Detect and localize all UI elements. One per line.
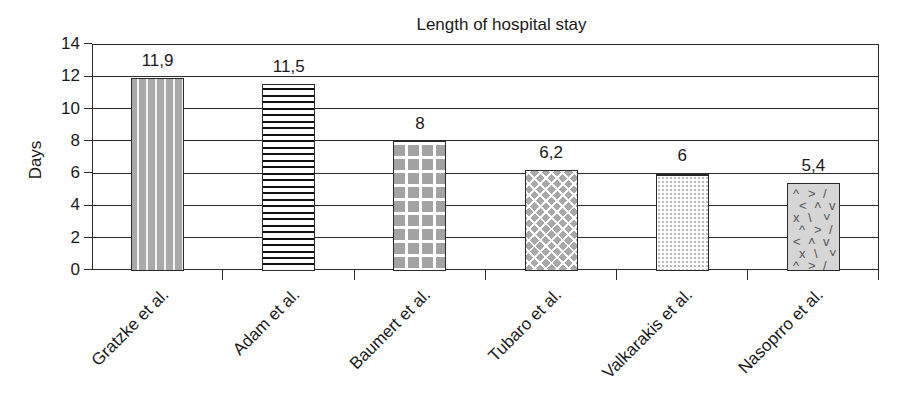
x-category-label: Nasoprro et al.	[735, 285, 828, 378]
x-category-label: Gratzke et al.	[87, 285, 173, 371]
bar-value-label: 11,9	[118, 51, 198, 71]
bar-adam	[262, 84, 315, 271]
y-tick-mark	[84, 205, 92, 206]
chart-title: Length of hospital stay	[0, 15, 908, 35]
x-tick-mark	[878, 270, 879, 280]
bar-pattern-glyph: >	[808, 259, 816, 272]
plot-area	[92, 44, 879, 270]
y-tick-mark	[84, 140, 92, 141]
bar-value-label: 6	[642, 146, 722, 166]
y-tick-mark	[84, 76, 92, 77]
x-tick-mark	[222, 270, 223, 280]
gridline	[93, 173, 878, 174]
y-tick-mark	[84, 237, 92, 238]
gridline	[93, 205, 878, 206]
y-tick-label: 10	[40, 100, 80, 117]
gridline	[93, 76, 878, 77]
y-tick-label: 0	[40, 261, 80, 278]
bar-pattern-glyph: /	[829, 223, 833, 236]
y-tick-mark	[84, 172, 92, 173]
bar-baumert	[393, 141, 446, 271]
gridline	[93, 237, 878, 238]
bar-pattern-glyph: ˄	[814, 199, 822, 212]
x-tick-mark	[747, 270, 748, 280]
x-tick-mark	[485, 270, 486, 280]
y-tick-label: 8	[40, 132, 80, 149]
bar-value-label: 8	[380, 114, 460, 134]
x-category-label: Valkarakis et al.	[599, 285, 697, 383]
x-category-label: Tubaro et al.	[485, 285, 566, 366]
y-tick-label: 14	[40, 35, 80, 52]
x-tick-mark	[616, 270, 617, 280]
bar-pattern-glyph: ˅	[829, 247, 837, 260]
bar-value-label: 6,2	[511, 143, 591, 163]
bar-nasoprro: ^>/<˄vx\˅^>/<˄vx\˅^>/	[787, 183, 840, 271]
bar-pattern-glyph: /	[823, 187, 827, 200]
bar-pattern-glyph: <	[799, 199, 807, 212]
y-tick-label: 4	[40, 196, 80, 213]
bar-tubaro	[525, 170, 578, 271]
y-tick-label: 2	[40, 229, 80, 246]
bar-value-label: 11,5	[249, 57, 329, 77]
bar-pattern-glyph: \	[808, 211, 812, 224]
y-tick-mark	[84, 43, 92, 44]
bar-valkarakis	[656, 173, 709, 271]
bar-pattern-glyph: ^	[793, 259, 799, 272]
y-tick-mark	[84, 269, 92, 270]
bar-pattern	[394, 142, 445, 270]
y-tick-label: 12	[40, 67, 80, 84]
x-category-label: Adam et al.	[229, 285, 304, 360]
gridline	[93, 140, 878, 141]
y-tick-label: 6	[40, 164, 80, 181]
bar-gratzke	[131, 78, 184, 271]
bar-pattern-glyph: x	[799, 247, 806, 260]
bar-value-label: 5,4	[773, 156, 853, 176]
gridline	[93, 108, 878, 109]
x-category-label: Baumert et al.	[346, 285, 435, 374]
bar-pattern-glyph: /	[823, 259, 827, 272]
x-tick-mark	[354, 270, 355, 280]
y-tick-mark	[84, 108, 92, 109]
